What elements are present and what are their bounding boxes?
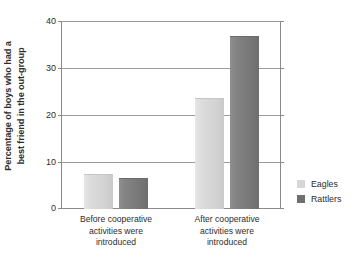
y-tick-mark-right-20 (280, 115, 284, 116)
bar-eagles-after (195, 98, 224, 209)
y-tick-label-0: 0 (51, 203, 56, 213)
bar-rattlers-after (230, 36, 259, 209)
y-tick-label-40: 40 (46, 16, 56, 26)
y-axis-title: Percentage of boys who had a best friend… (0, 0, 40, 215)
y-tick-mark-right-10 (280, 162, 284, 163)
y-tick-mark-40 (58, 21, 62, 22)
legend-swatch-eagles-icon (297, 180, 305, 188)
gridline-40: 40 (62, 21, 280, 22)
bar-rattlers-before (119, 178, 148, 209)
y-axis-title-line-1: Percentage of boys who had a (3, 41, 13, 170)
legend: Eagles Rattlers (297, 177, 341, 207)
y-tick-mark-right-40 (280, 21, 284, 22)
legend-label-rattlers: Rattlers (311, 194, 341, 204)
bar-chart: Percentage of boys who had a best friend… (0, 0, 362, 259)
y-tick-mark-30 (58, 68, 62, 69)
x-category-after-line-1: After cooperative (195, 214, 260, 224)
y-tick-label-30: 30 (46, 63, 56, 73)
x-category-before-line-1: Before cooperative (80, 214, 152, 224)
x-category-after-line-2: activities were (200, 226, 254, 236)
y-tick-mark-0 (58, 208, 62, 209)
legend-swatch-rattlers-icon (297, 195, 305, 203)
y-tick-mark-20 (58, 115, 62, 116)
legend-label-eagles: Eagles (311, 179, 338, 189)
x-category-label-after: After cooperative activities were introd… (167, 214, 287, 249)
y-tick-mark-right-0 (280, 208, 284, 209)
bar-eagles-before (84, 174, 113, 209)
x-category-before-line-3: introduced (96, 237, 136, 247)
y-tick-mark-right-30 (280, 68, 284, 69)
y-tick-mark-10 (58, 162, 62, 163)
legend-item-rattlers: Rattlers (297, 192, 341, 205)
x-category-label-before: Before cooperative activities were intro… (56, 214, 176, 249)
x-category-after-line-3: introduced (207, 237, 247, 247)
legend-item-eagles: Eagles (297, 177, 341, 190)
y-axis-title-line-2: best friend in the out-group (16, 47, 26, 164)
y-tick-label-10: 10 (46, 157, 56, 167)
plot-area: 40 30 20 10 0 (61, 21, 281, 209)
y-tick-label-20: 20 (46, 110, 56, 120)
y-axis-title-text: Percentage of boys who had a best friend… (2, 6, 27, 206)
x-category-before-line-2: activities were (89, 226, 143, 236)
